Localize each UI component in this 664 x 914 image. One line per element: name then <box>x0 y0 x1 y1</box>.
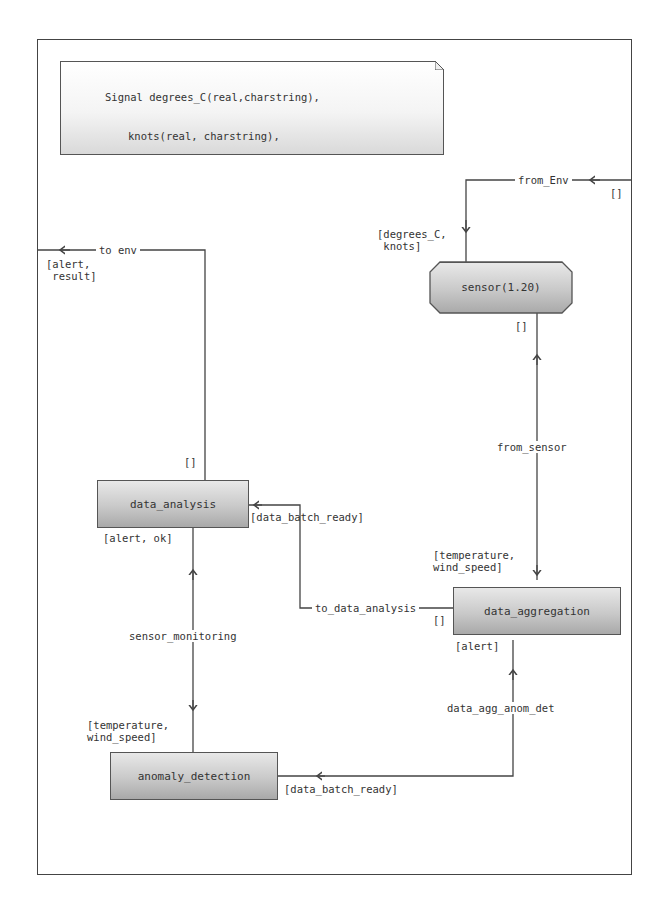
signal-list-to-data-analysis-src: [] <box>433 614 446 626</box>
signal-list-aggregation-in: [temperature, wind_speed] <box>433 549 515 573</box>
channel-from-env[interactable]: from_Env <box>515 174 572 186</box>
signal-list-to-env-in: [] <box>184 456 197 468</box>
channel-from-sensor[interactable]: from_sensor <box>494 441 570 453</box>
signal-list-anomaly-batch: [data_batch_ready] <box>284 783 398 795</box>
block-sensor-label: sensor(1.20) <box>461 281 540 294</box>
block-anomaly-detection[interactable]: anomaly_detection <box>110 752 278 800</box>
channel-sensor-monitoring[interactable]: sensor_monitoring <box>126 630 239 642</box>
block-data-analysis-label: data_analysis <box>130 498 216 511</box>
signal-list-sensor-out: [] <box>515 320 528 332</box>
signal-list-analysis-out: [alert, ok] <box>103 532 173 544</box>
channel-to-env[interactable]: to env <box>96 244 140 256</box>
signal-list-from-env-in: [degrees_C, knots] <box>377 228 447 252</box>
block-data-aggregation-label: data_aggregation <box>484 605 590 618</box>
note-fold-corner-icon <box>435 61 444 70</box>
signal-list-aggregation-alert: [alert] <box>455 640 499 652</box>
block-data-aggregation[interactable]: data_aggregation <box>453 587 621 635</box>
block-sensor[interactable]: sensor(1.20) <box>430 262 572 313</box>
block-anomaly-detection-label: anomaly_detection <box>138 770 251 783</box>
signal-list-monitoring-in: [temperature, wind_speed] <box>87 719 169 743</box>
signal-declaration-note: Signal degrees_C(real,charstring), knots… <box>60 61 444 155</box>
block-data-analysis[interactable]: data_analysis <box>97 480 249 528</box>
signal-line-2: knots(real, charstring), <box>61 130 443 143</box>
channel-data-agg-anom-det[interactable]: data_agg_anom_det <box>444 702 557 714</box>
signal-line-1: Signal degrees_C(real,charstring), <box>61 91 443 104</box>
channel-to-data-analysis[interactable]: to_data_analysis <box>312 602 419 614</box>
signal-list-from-env-out: [] <box>610 187 623 199</box>
signal-list-to-env-out: [alert, result] <box>46 258 97 282</box>
signal-list-analysis-batch: [data_batch_ready] <box>250 511 364 523</box>
